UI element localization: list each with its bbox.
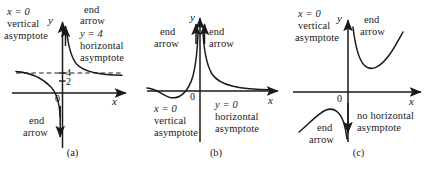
- end-arrow-left-line2-b: arrow: [154, 38, 179, 49]
- vertical-asymptote-line2-a: asymptote: [4, 30, 48, 41]
- vertical-asymptote-line1-b: vertical: [154, 115, 186, 126]
- y-axis-label-c: y: [337, 12, 342, 24]
- end-arrow-bottom-line2-c: arrow: [309, 134, 334, 145]
- vertical-asymptote-line1-c: vertical: [298, 20, 330, 31]
- end-arrow-top-line1-c: end: [364, 14, 379, 25]
- end-arrow-left-line1-b: end: [160, 26, 175, 37]
- origin-label-b: 0: [190, 91, 195, 102]
- end-arrow-bottom-line1-c: end: [317, 122, 332, 133]
- caption-c: (c): [287, 147, 430, 158]
- panel-a: x = 0 vertical asymptote end arrow y = 4…: [0, 0, 145, 169]
- horizontal-asymptote-line1-a: horizontal: [80, 40, 124, 51]
- end-arrow-top-line2-c: arrow: [360, 26, 385, 37]
- vertical-asymptote-equation-b: x = 0: [154, 103, 177, 114]
- end-arrow-top-line2-a: arrow: [80, 15, 105, 26]
- vertical-asymptote-equation-c: x = 0: [298, 8, 321, 19]
- vertical-asymptote-line1-a: vertical: [7, 18, 39, 29]
- horizontal-asymptote-equation-a: y = 4: [80, 28, 103, 39]
- caption-a: (a): [0, 147, 145, 158]
- end-arrow-top-line1-a: end: [84, 4, 99, 15]
- horizontal-asymptote-line2-b: asymptote: [215, 123, 259, 134]
- horizontal-asymptote-equation-b: y = 0: [215, 99, 238, 110]
- caption-b: (b): [145, 147, 287, 158]
- end-arrow-right-line1-b: end: [209, 26, 224, 37]
- vertical-asymptote-equation-a: x = 0: [7, 6, 30, 17]
- panel-b: y end arrow end arrow 0 x x = 0 vertical…: [145, 0, 287, 169]
- asymptote-figure: x = 0 vertical asymptote end arrow y = 4…: [0, 0, 430, 169]
- no-horizontal-line2-c: asymptote: [357, 122, 401, 133]
- panel-c: x = 0 vertical asymptote y end arrow 0 x…: [287, 0, 430, 169]
- end-arrow-bottom-line2-a: arrow: [23, 127, 48, 138]
- x-axis-label-b: x: [268, 94, 273, 106]
- origin-label-a: 0: [55, 93, 60, 104]
- curve-branch-lower-left: [16, 72, 60, 118]
- vertical-asymptote-line2-c: asymptote: [295, 32, 339, 43]
- horizontal-asymptote-line2-a: asymptote: [80, 52, 124, 63]
- x-axis-label-a: x: [112, 95, 117, 107]
- no-horizontal-line1-c: no horizontal: [357, 110, 414, 121]
- horizontal-asymptote-line1-b: horizontal: [215, 111, 259, 122]
- y-axis-label-b: y: [190, 11, 195, 23]
- tick-label-2-a: 2: [66, 76, 71, 87]
- origin-label-c: 0: [337, 93, 342, 104]
- y-axis-label-a: y: [48, 14, 53, 26]
- end-arrow-right-line2-b: arrow: [209, 38, 234, 49]
- end-arrow-bottom-line1-a: end: [29, 115, 44, 126]
- x-axis-label-c: x: [409, 95, 414, 107]
- vertical-asymptote-line2-b: asymptote: [154, 127, 198, 138]
